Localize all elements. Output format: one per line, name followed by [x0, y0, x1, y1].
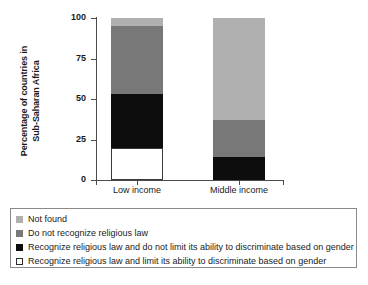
y-axis-title-line-2: Sub-Saharan Africa [30, 22, 42, 180]
chart-legend: Not foundDo not recognize religious lawR… [10, 208, 357, 268]
bar-segment[interactable] [111, 94, 163, 147]
legend-swatch [16, 244, 23, 251]
legend-item[interactable]: Recognize religious law and limit its ab… [16, 255, 356, 268]
y-axis-tick-label: 0 [46, 175, 86, 184]
x-axis-end-tick [96, 180, 97, 185]
y-axis-tick-label: 100 [46, 13, 86, 22]
x-axis-category-label: Middle income [189, 185, 289, 196]
y-axis-line [96, 17, 97, 181]
stacked-bar[interactable] [213, 18, 265, 180]
legend-item[interactable]: Do not recognize religious law [16, 227, 356, 240]
y-axis-tick-label: 25 [46, 135, 86, 144]
y-axis-tick-label: 75 [46, 54, 86, 63]
legend-label: Recognize religious law and limit its ab… [28, 256, 326, 267]
bar-segment[interactable] [111, 26, 163, 94]
legend-item[interactable]: Recognize religious law and do not limit… [16, 241, 356, 254]
legend-label: Do not recognize religious law [28, 228, 148, 239]
chart-plot-area: Percentage of countries in Sub-Saharan A… [0, 0, 368, 200]
y-axis-tick [91, 59, 96, 60]
legend-item[interactable]: Not found [16, 213, 356, 226]
bar-segment[interactable] [213, 120, 265, 157]
y-axis-tick [91, 99, 96, 100]
x-axis-category-label: Low income [87, 185, 187, 196]
legend-label: Recognize religious law and do not limit… [28, 242, 354, 253]
bar-segment[interactable] [111, 18, 163, 26]
y-axis-title: Percentage of countries in Sub-Saharan A… [18, 0, 48, 22]
legend-swatch [16, 230, 23, 237]
x-axis-end-tick [283, 180, 284, 185]
legend-swatch [16, 216, 23, 223]
x-axis-line [96, 180, 283, 181]
bar-segment[interactable] [213, 157, 265, 180]
y-axis-tick [91, 18, 96, 19]
bar-segment[interactable] [111, 148, 163, 180]
y-axis-tick-label: 50 [46, 94, 86, 103]
stacked-bar[interactable] [111, 18, 163, 180]
bar-segment[interactable] [213, 18, 265, 120]
y-axis-tick [91, 140, 96, 141]
y-axis-title-line-1: Percentage of countries in [18, 22, 30, 180]
legend-swatch [16, 258, 23, 265]
legend-label: Not found [28, 214, 67, 225]
